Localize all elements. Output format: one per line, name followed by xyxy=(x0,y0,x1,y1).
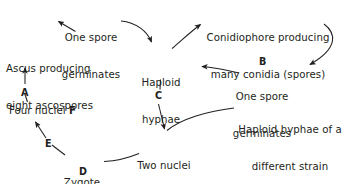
node-line-1: Ascus producing xyxy=(6,63,106,75)
step-label-b: B xyxy=(259,57,266,67)
node-line-1: Haploid xyxy=(134,77,188,89)
arrow-top-spore-to-haploid xyxy=(121,21,152,42)
node-four-nuclei-text: Four nuclei xyxy=(9,105,69,116)
node-line-2: different strain xyxy=(233,161,347,173)
ascomycete-life-cycle-diagram: One spore germinates Ascus producing eig… xyxy=(0,0,351,184)
node-haploid-hyphae-different-strain: Haploid hyphae of a different strain xyxy=(233,100,347,184)
step-label-d: D xyxy=(79,167,87,177)
step-label-e: E xyxy=(45,139,52,149)
node-zygote-text: Zygote xyxy=(58,177,106,184)
step-label-a: A xyxy=(21,88,28,98)
node-four-nuclei: Four nuclei F xyxy=(9,105,95,117)
arrow-haploid-to-conidiophore xyxy=(172,25,201,49)
arrow-two-nuclei-to-zygote xyxy=(104,154,139,162)
node-line-1: Two nuclei xyxy=(136,160,192,172)
node-line-2: hyphae xyxy=(134,114,188,126)
node-line-1: Haploid hyphae of a xyxy=(233,124,347,136)
node-two-nuclei-fuse: Two nuclei fuse xyxy=(136,136,192,184)
step-label-c: C xyxy=(155,91,162,101)
step-label-f: F xyxy=(69,105,76,116)
node-line-1: Conidiophore producing xyxy=(205,32,331,44)
